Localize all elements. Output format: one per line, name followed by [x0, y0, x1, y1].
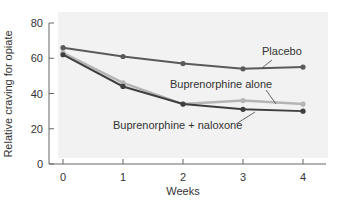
y-tick-label: 80	[31, 17, 43, 29]
data-point	[300, 109, 305, 114]
x-tick-label: 1	[120, 171, 126, 183]
data-point	[180, 61, 185, 66]
chart: 02040608001234 PlaceboBuprenorphine alon…	[0, 0, 338, 209]
x-tick-label: 0	[60, 171, 66, 183]
y-tick-label: 40	[31, 88, 43, 100]
x-tick-label: 4	[300, 171, 306, 183]
data-point	[300, 101, 305, 106]
data-point	[180, 101, 185, 106]
y-tick-label: 0	[37, 158, 43, 170]
x-axis-label: Weeks	[166, 185, 200, 197]
data-point	[240, 66, 245, 71]
data-point	[60, 45, 65, 50]
data-point	[120, 54, 125, 59]
data-point	[240, 98, 245, 103]
series-label: Buprenorphine + naloxone	[113, 119, 242, 131]
y-tick-label: 60	[31, 52, 43, 64]
y-axis-label: Relative craving for opiate	[2, 30, 14, 157]
data-point	[120, 84, 125, 89]
data-point	[240, 107, 245, 112]
series-label: Buprenorphine alone	[170, 78, 272, 90]
data-point	[60, 52, 65, 57]
x-tick-label: 2	[180, 171, 186, 183]
series-label: Placebo	[262, 45, 302, 57]
data-point	[300, 64, 305, 69]
x-tick-label: 3	[240, 171, 246, 183]
y-tick-label: 20	[31, 123, 43, 135]
